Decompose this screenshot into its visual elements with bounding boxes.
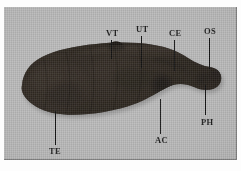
label-ph: PH <box>201 118 214 127</box>
specimen-body <box>4 7 237 160</box>
label-os: OS <box>204 27 216 36</box>
leader-line-ac <box>160 99 161 134</box>
leader-line-te <box>55 111 56 145</box>
specimen-texture <box>4 7 237 160</box>
specimen-internal-structures <box>4 7 237 160</box>
label-ac: AC <box>155 136 168 145</box>
label-te: TE <box>49 147 61 156</box>
leader-line-ph <box>205 85 206 115</box>
label-ut: UT <box>136 25 149 34</box>
specimen-figure: VT UT CE OS TE AC PH <box>0 0 241 171</box>
leader-line-os <box>209 38 210 69</box>
label-ce: CE <box>169 29 182 38</box>
photographic-plate: VT UT CE OS TE AC PH <box>4 7 237 160</box>
label-vt: VT <box>106 29 119 38</box>
leader-line-ce <box>174 40 175 71</box>
leader-line-ut <box>141 36 142 68</box>
leader-line-vt <box>111 40 112 59</box>
